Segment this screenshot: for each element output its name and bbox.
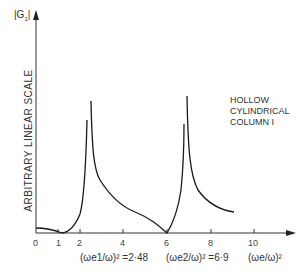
x-tick-10: 10 — [248, 238, 258, 248]
y-axis-label: ARBITRARY LINEAR SCALE — [23, 66, 34, 216]
x-axis-arrow-icon — [286, 230, 296, 236]
x-axis-label: (ωe/ω)² — [248, 252, 282, 263]
chart-plot — [0, 0, 304, 274]
x-tick-4: 4 — [120, 238, 125, 248]
resonance-2-label: (ωe2/ω)² =6·9 — [166, 252, 229, 263]
y-axis-symbol: |G1| — [14, 9, 30, 22]
response-curve — [36, 96, 234, 233]
annotation-line-3: COLUMN I — [230, 117, 274, 128]
x-tick-6: 6 — [164, 238, 169, 248]
annotation-line-1: HOLLOW — [230, 95, 269, 106]
x-tick-1: 1 — [56, 238, 61, 248]
x-ticks — [58, 229, 254, 233]
x-tick-2: 2 — [77, 238, 82, 248]
annotation-line-2: CYLINDRICAL — [230, 106, 290, 117]
x-tick-0: 0 — [33, 238, 38, 248]
x-tick-8: 8 — [208, 238, 213, 248]
resonance-1-label: (ωe1/ω)² =2·48 — [80, 252, 148, 263]
chart-figure: |G1| ARBITRARY LINEAR SCALE HOLLOW CYLIN… — [0, 0, 304, 274]
y-axis-arrow-icon — [33, 10, 39, 20]
